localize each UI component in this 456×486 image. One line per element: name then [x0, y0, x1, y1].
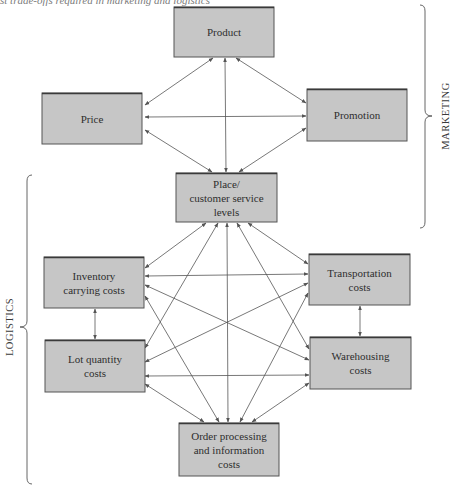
arrow-lot-warehousing — [145, 375, 309, 376]
node-order-label: and information — [194, 444, 265, 456]
marketing-brace — [420, 5, 432, 228]
node-place-label: Place/ — [213, 178, 241, 190]
node-lot: Lot quantitycosts — [45, 340, 145, 392]
node-transportation-label: costs — [349, 281, 371, 293]
node-price-label: Price — [81, 113, 104, 125]
arrow-product-promotion — [236, 58, 306, 103]
node-warehousing: Warehousingcosts — [310, 337, 411, 389]
node-transportation: Transportationcosts — [309, 254, 410, 305]
marketing-group-label: MARKETING — [440, 82, 451, 150]
logistics-brace — [20, 175, 32, 484]
arrow-warehousing-order — [252, 383, 309, 422]
node-place-label: customer service — [189, 192, 263, 204]
arrow-price-promotion — [145, 116, 306, 117]
node-promotion-label: Promotion — [334, 109, 381, 121]
arrow-transportation-order — [240, 293, 308, 422]
arrow-place-inventory — [145, 223, 206, 268]
node-lot-label: costs — [84, 367, 106, 379]
node-inventory-label: Inventory — [73, 270, 116, 282]
arrow-product-place — [225, 58, 226, 172]
arrow-product-price — [145, 58, 213, 105]
arrow-lot-order — [145, 384, 204, 422]
node-place: Place/customer servicelevels — [176, 173, 277, 222]
node-product-label: Product — [207, 26, 241, 38]
node-order-label: Order processing — [191, 430, 267, 442]
node-inventory: Inventorycarrying costs — [44, 257, 144, 308]
node-inventory-label: carrying costs — [63, 284, 124, 296]
node-lot-label: Lot quantity — [68, 353, 123, 365]
node-order: Order processingand informationcosts — [179, 423, 279, 476]
diagram-nodes: ProductPricePromotionPlace/customer serv… — [42, 7, 411, 476]
logistics-group-label: LOGISTICS — [4, 298, 15, 356]
arrow-inventory-transportation — [145, 274, 308, 276]
node-price: Price — [42, 93, 142, 144]
arrow-place-lot — [145, 223, 218, 348]
node-order-label: costs — [218, 458, 240, 470]
logistics-marketing-tradeoff-diagram: MARKETINGLOGISTICS ProductPricePromotion… — [0, 0, 456, 486]
arrow-lot-transportation — [145, 283, 308, 362]
node-transportation-label: Transportation — [327, 267, 392, 279]
arrow-inventory-order — [145, 296, 219, 422]
arrow-place-warehousing — [237, 223, 309, 349]
node-warehousing-label: Warehousing — [332, 350, 390, 362]
node-product: Product — [174, 7, 274, 57]
arrow-price-place — [145, 130, 212, 172]
node-place-label: levels — [214, 206, 240, 218]
node-promotion: Promotion — [307, 89, 407, 141]
arrow-promotion-place — [239, 128, 306, 172]
node-warehousing-label: costs — [350, 364, 372, 376]
